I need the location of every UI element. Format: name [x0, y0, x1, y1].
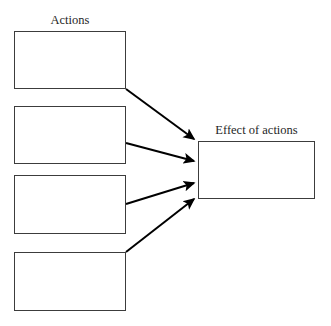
arrow-box2-to-effect: [126, 143, 194, 161]
action-box-4[interactable]: [14, 252, 126, 311]
effect-of-actions-label: Effect of actions: [198, 123, 315, 137]
action-box-2[interactable]: [14, 106, 126, 164]
action-box-3[interactable]: [14, 175, 126, 234]
action-box-1[interactable]: [14, 31, 126, 89]
arrow-box3-to-effect: [126, 183, 194, 204]
effect-box[interactable]: [198, 141, 315, 199]
arrow-box1-to-effect: [126, 89, 194, 139]
arrow-box4-to-effect: [126, 199, 194, 252]
diagram-canvas: Actions Effect of actions: [0, 0, 331, 326]
actions-group-label: Actions: [14, 13, 126, 27]
